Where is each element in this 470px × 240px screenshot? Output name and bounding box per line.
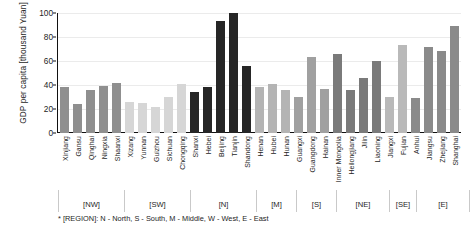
bar bbox=[411, 98, 419, 133]
x-tick-slot: Shanghai bbox=[448, 135, 461, 197]
bar bbox=[424, 47, 432, 133]
bar-slot bbox=[227, 13, 240, 133]
x-tick-slot: Guangdong bbox=[305, 135, 318, 197]
bar bbox=[450, 26, 458, 133]
x-tick-slot: Jilin bbox=[357, 135, 370, 197]
x-tick-label: Shaanxi bbox=[113, 136, 120, 161]
bar-slot bbox=[97, 13, 110, 133]
y-tick-mark bbox=[53, 37, 56, 38]
x-tick-label: Anhui bbox=[412, 136, 419, 154]
x-tick-label: Hubei bbox=[269, 136, 276, 154]
x-tick-label: Shanghai bbox=[451, 136, 458, 166]
bar-slot bbox=[123, 13, 136, 133]
y-tick-mark bbox=[53, 61, 56, 62]
region-group-label: [S] bbox=[296, 196, 336, 212]
x-tick-label: Xinjiang bbox=[61, 136, 68, 161]
x-tick-label: Guangdong bbox=[308, 136, 315, 172]
region-group-label: [M] bbox=[256, 196, 296, 212]
bar-slot bbox=[110, 13, 123, 133]
x-tick-slot: Hebei bbox=[201, 135, 214, 197]
bar-slot bbox=[357, 13, 370, 133]
x-tick-slot: Hunan bbox=[279, 135, 292, 197]
x-tick-label: Inner Mongolia bbox=[334, 136, 341, 182]
x-tick-slot: Fujian bbox=[396, 135, 409, 197]
bar-slot bbox=[149, 13, 162, 133]
bar-slot bbox=[58, 13, 71, 133]
x-tick-slot: Gansu bbox=[71, 135, 84, 197]
bar bbox=[398, 45, 406, 133]
bar-slot bbox=[279, 13, 292, 133]
x-tick-label: Gansu bbox=[74, 136, 81, 157]
bar bbox=[320, 89, 328, 133]
bar-slot bbox=[292, 13, 305, 133]
bar-slot bbox=[318, 13, 331, 133]
bar bbox=[86, 90, 94, 133]
bar-slot bbox=[162, 13, 175, 133]
region-group-label: [NW] bbox=[58, 196, 124, 212]
bar bbox=[164, 97, 172, 133]
x-tick-label: Chongqing bbox=[178, 136, 185, 170]
y-axis-tick-labels: 020406080100 bbox=[20, 13, 53, 133]
bar bbox=[359, 78, 367, 133]
bar-slot bbox=[201, 13, 214, 133]
region-group-label: [NE] bbox=[336, 196, 389, 212]
x-tick-slot: Jiangxi bbox=[383, 135, 396, 197]
x-tick-label: Liaoning bbox=[373, 136, 380, 162]
bar-slot bbox=[409, 13, 422, 133]
bar bbox=[190, 92, 198, 133]
x-tick-label: Guangxi bbox=[295, 136, 302, 162]
bar bbox=[73, 104, 81, 133]
x-tick-label: Jiangsu bbox=[425, 136, 432, 160]
y-tick-mark bbox=[53, 133, 56, 134]
x-tick-slot: Hainan bbox=[318, 135, 331, 197]
y-tick-label: 60 bbox=[23, 56, 53, 66]
bar bbox=[346, 90, 354, 133]
x-tick-label: Henan bbox=[256, 136, 263, 157]
x-tick-label: Beijing bbox=[217, 136, 224, 157]
region-group-label: [E] bbox=[416, 196, 470, 212]
x-tick-label: Zhejiang bbox=[438, 136, 445, 163]
x-tick-slot: Anhui bbox=[409, 135, 422, 197]
bar-slot bbox=[84, 13, 97, 133]
bar-slot bbox=[305, 13, 318, 133]
bar bbox=[138, 103, 146, 133]
x-tick-slot: Qinghai bbox=[84, 135, 97, 197]
bar-slot bbox=[240, 13, 253, 133]
bar bbox=[307, 57, 315, 133]
x-tick-label: Qinghai bbox=[87, 136, 94, 160]
bar bbox=[216, 21, 224, 133]
x-tick-label: Jiangxi bbox=[386, 136, 393, 158]
bar bbox=[229, 13, 237, 133]
x-tick-label: Tianjin bbox=[230, 136, 237, 156]
bar bbox=[437, 51, 445, 133]
bar-slot bbox=[396, 13, 409, 133]
y-tick-label: 0 bbox=[23, 128, 53, 138]
x-tick-slot: Jiangsu bbox=[422, 135, 435, 197]
x-tick-slot: Heilongjiang bbox=[344, 135, 357, 197]
x-tick-label: Fujian bbox=[399, 136, 406, 155]
bar-slot bbox=[435, 13, 448, 133]
x-tick-label: Hainan bbox=[321, 136, 328, 158]
bar bbox=[112, 83, 120, 133]
x-tick-slot: Yunnan bbox=[136, 135, 149, 197]
x-tick-label: Yunnan bbox=[139, 136, 146, 160]
bar bbox=[294, 97, 302, 133]
x-axis-tick-labels: XinjiangGansuQinghaiNingxiaShaanxiXizang… bbox=[58, 135, 461, 197]
x-tick-slot: Hubei bbox=[266, 135, 279, 197]
bar-slot bbox=[331, 13, 344, 133]
bar bbox=[372, 61, 380, 133]
bar bbox=[242, 66, 250, 133]
x-tick-slot: Shandong bbox=[240, 135, 253, 197]
y-tick-label: 80 bbox=[23, 32, 53, 42]
y-tick-label: 40 bbox=[23, 80, 53, 90]
x-tick-slot: Henan bbox=[253, 135, 266, 197]
y-tick-mark bbox=[53, 13, 56, 14]
region-group-label: [SW] bbox=[124, 196, 190, 212]
bar bbox=[203, 87, 211, 133]
footnote: * [REGION]: N - North, S - South, M - Mi… bbox=[58, 214, 269, 223]
x-tick-label: Heilongjiang bbox=[347, 136, 354, 175]
y-tick-mark bbox=[53, 85, 56, 86]
region-group-label: [SE] bbox=[389, 196, 416, 212]
bar bbox=[60, 87, 68, 133]
